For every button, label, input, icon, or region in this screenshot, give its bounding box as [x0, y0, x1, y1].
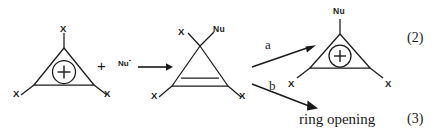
product-substituent-bottom-right: X	[385, 79, 391, 89]
product-ring-opening-label: ring opening	[299, 112, 375, 127]
intermediate-apex-left: X	[178, 27, 184, 37]
cyclopropene-ring	[172, 46, 228, 86]
reactant-substituent-bottom-left: X	[13, 89, 19, 99]
reactant-substituent-top: X	[60, 24, 66, 34]
bond-bottom-right	[370, 68, 383, 78]
intermediate-structure	[150, 28, 250, 108]
arrow-head	[307, 101, 318, 111]
branch-label-b: b	[269, 79, 276, 92]
product-cation-structure	[296, 14, 396, 90]
reactant-substituent-bottom-right: X	[104, 89, 110, 99]
reagent-charge: -	[129, 56, 131, 63]
bond-bottom-left	[21, 85, 34, 95]
reagent-label: Nu	[118, 59, 129, 68]
intermediate-substituent-bottom-left: X	[151, 91, 157, 101]
equation-number-upper: (2)	[407, 31, 423, 45]
bond-apex-left	[188, 33, 200, 46]
branch-label-a: a	[265, 38, 271, 51]
plus-operator: +	[97, 58, 106, 73]
product-substituent-top: Nu	[333, 7, 345, 16]
intermediate-substituent-bottom-right: X	[239, 91, 245, 101]
intermediate-apex-right: Nu	[213, 25, 225, 34]
product-substituent-bottom-left: X	[288, 79, 294, 89]
bond-apex-right	[200, 32, 214, 46]
equation-number-lower: (3)	[407, 112, 423, 126]
bond-bottom-left	[159, 86, 172, 97]
bond-bottom-left	[297, 68, 310, 78]
reagent-nucleophile: Nu-	[118, 60, 131, 68]
reaction-scheme: X X X + Nu- X Nu X X	[0, 0, 438, 138]
